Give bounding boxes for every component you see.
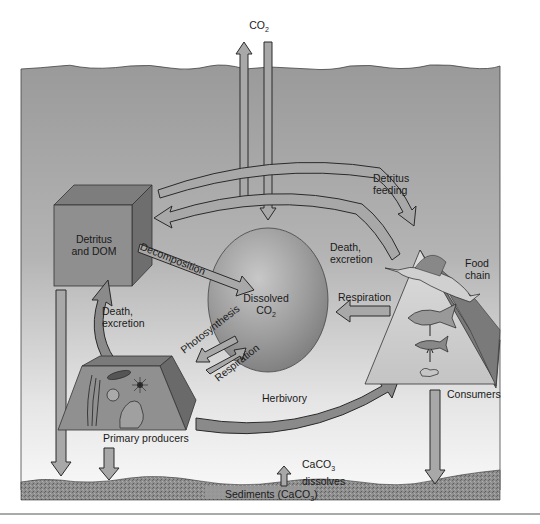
atmosphere-co2-label: CO2: [247, 19, 271, 36]
herbivory-text: Herbivory: [262, 392, 307, 404]
primary-producers-text: Primary producers: [103, 432, 189, 444]
detritus-line2: and DOM: [58, 245, 130, 257]
excretion-line2: excretion: [330, 253, 373, 265]
death-excretion-producers-label: Death, excretion: [102, 305, 145, 329]
caco3-subscript: 3: [331, 465, 335, 472]
carbon-cycle-diagram: CO2 Detritus and DOM Dissolved CO2 Detri…: [0, 0, 540, 524]
detritus-feeding-line1: Detritus: [373, 172, 409, 184]
co2-text: CO: [249, 19, 265, 31]
excretion-producers-line2: excretion: [102, 317, 145, 329]
chain-line2: chain: [465, 269, 490, 281]
detritus-line1: Detritus: [58, 233, 130, 245]
death-excretion-consumers-label: Death, excretion: [330, 241, 373, 265]
sediments-text: Sediments (CaCO: [225, 488, 310, 500]
sediments-label: Sediments (CaCO3): [225, 488, 318, 505]
co2-subscript: 2: [265, 26, 269, 33]
consumers-label: Consumers: [447, 388, 501, 400]
death-producers-line1: Death,: [102, 305, 145, 317]
detritus-feeding-label: Detritus feeding: [373, 172, 409, 196]
respiration-consumers-label: Respiration: [338, 291, 391, 303]
death-line1: Death,: [330, 241, 373, 253]
dissolved-line1: Dissolved: [234, 292, 298, 304]
primary-producers-label: Primary producers: [103, 432, 189, 444]
dissolves-text: dissolves: [302, 475, 345, 487]
food-line1: Food: [465, 257, 490, 269]
dissolved-subscript: 2: [272, 311, 276, 318]
food-chain-label: Food chain: [465, 257, 490, 281]
detritus-feeding-line2: feeding: [373, 184, 409, 196]
herbivory-label: Herbivory: [262, 392, 307, 404]
caco3-dissolves-label: CaCO3 dissolves: [302, 458, 345, 487]
respiration-consumers-text: Respiration: [338, 291, 391, 303]
caco3-text: CaCO: [302, 458, 331, 470]
sediments-suffix: ): [314, 488, 318, 500]
dissolved-line2: CO: [256, 304, 272, 316]
dissolved-co2-label: Dissolved CO2: [234, 292, 298, 321]
consumers-text: Consumers: [447, 388, 501, 400]
detritus-box-label: Detritus and DOM: [58, 233, 130, 257]
